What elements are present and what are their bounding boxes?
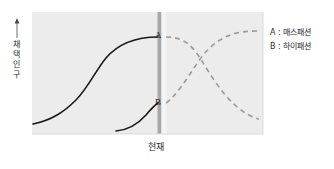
curve-a-dashed [166,37,259,119]
curve-b-solid [116,103,158,131]
legend-item-b: B : 하이패션 [270,40,311,54]
y-axis-label: 채 택 인 구 [8,40,24,80]
y-axis-label-char-1: 택 [8,50,24,60]
legend-item-a: A : 매스패션 [270,26,311,40]
y-axis-label-char-2: 인 [8,60,24,70]
fashion-adoption-chart: 채 택 인 구 현재 A B A : 매스패션 B : 하이패션 [0,0,334,169]
legend: A : 매스패션 B : 하이패션 [270,26,311,54]
curve-label-b: B [155,97,161,107]
y-axis-label-char-3: 구 [8,70,24,80]
curve-b-dashed [166,31,259,103]
y-axis-label-char-0: 채 [8,40,24,50]
curve-a-solid [33,37,158,124]
x-axis-label: 현재 [126,140,186,153]
present-divider-gap [162,12,167,134]
curve-label-a: A [155,30,162,40]
y-axis-arrow-icon [15,18,20,38]
